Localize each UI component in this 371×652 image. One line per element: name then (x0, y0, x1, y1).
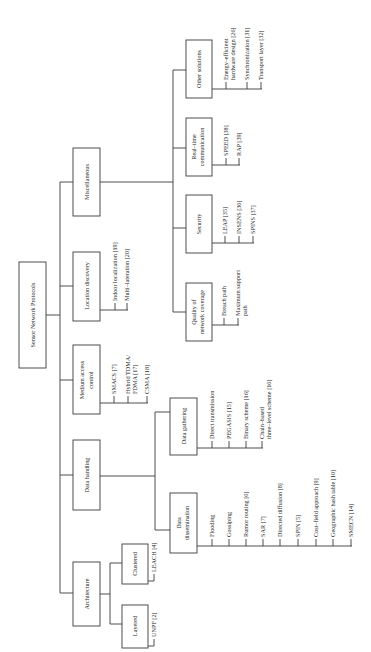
item-smacs: SMACS [7] (110, 364, 117, 394)
clustered-label: Clustered (131, 551, 138, 576)
item-chain-based: Chain–based (258, 406, 265, 439)
item-transport-layer: Transport layer [32] (257, 30, 264, 80)
item-breach-path: Breach path (220, 285, 227, 316)
root-node: Sensor Network Protocols (19, 262, 46, 368)
item-spin: SPIN [5] (294, 515, 301, 537)
node-location-discovery: Location discovery (73, 252, 100, 321)
node-other-solutions: Other solutions (186, 40, 212, 98)
item-energy-efficient: Energy–efficient (222, 38, 229, 80)
data-dissem-label-2: dissemination (183, 506, 190, 540)
node-data-handling: Data handling (73, 440, 100, 510)
item-hybrid-tdma-fdma: Hybrid TDMA/ (124, 355, 131, 394)
item-chain-based-2: three–level scheme [16] (265, 380, 272, 439)
item-binary-scheme: Binary scheme [16] (242, 390, 249, 439)
item-unpf: UNPF [2] (150, 612, 157, 637)
item-gossiping: Gossiping (225, 512, 232, 537)
qos-label-1: Quality of (190, 298, 197, 324)
item-synchronization: Synchronization [31] (243, 28, 250, 80)
item-smecn: SMECN [14] (347, 504, 354, 537)
item-sar: SAR [7] (259, 516, 266, 537)
item-directed-diffusion: Directed diffusion [8] (276, 483, 283, 537)
item-leap: LEAP [35] (221, 207, 228, 234)
item-maximum-support-path: Maximum support (234, 270, 241, 316)
node-quality-of-network-coverage: Quality of network coverage (186, 283, 212, 341)
node-layered: Layered (122, 605, 148, 648)
item-rap: RAP [39] (235, 132, 242, 156)
node-medium-access-control: Medium access control (73, 345, 100, 414)
rt-label-2: communication (198, 128, 205, 167)
item-maximum-support-path-2: path (241, 304, 248, 316)
node-data-dissemination: Data dissemination (170, 493, 197, 553)
sensor-network-protocols-tree: Sensor Network Protocols Miscellaneous O… (0, 0, 371, 652)
location-label: Location discovery (83, 261, 90, 309)
security-label: Security (195, 213, 202, 235)
item-csma: CSMA [18] (143, 365, 150, 394)
item-insens: INSENS [36] (235, 200, 242, 234)
item-direct-transmission: Direct transmission (208, 391, 215, 439)
mac-label-1: Medium access (78, 360, 85, 399)
item-spins: SPINS [37] (249, 205, 256, 234)
item-cost-field-approach: Cost–field approach [9] (312, 478, 319, 537)
node-security: Security (186, 195, 212, 253)
item-hybrid-tdma-fdma-2: FDMA [17] (131, 365, 138, 394)
item-rumor-routing: Rumor routing [6] (242, 492, 249, 537)
mac-label-2: control (87, 371, 94, 389)
item-leach: LEACH [4] (150, 543, 157, 572)
node-miscellaneous: Miscellaneous (73, 148, 100, 216)
item-pegasis: PEGASIS [15] (225, 402, 232, 439)
node-data-gathering: Data gathering (170, 398, 197, 455)
misc-label: Miscellaneous (83, 164, 90, 200)
item-multi-lateration: Multi–lateration [20] (123, 249, 130, 301)
node-architecture: Architecture (73, 562, 100, 626)
item-indoor-localization: Indoor localization [19] (111, 242, 118, 301)
data-dissem-label-1: Data (175, 517, 182, 529)
node-clustered: Clustered (122, 544, 148, 584)
data-handling-label: Data handling (83, 458, 90, 493)
layered-label: Layered (131, 615, 138, 636)
rt-label-1: Real–time (190, 134, 197, 160)
qos-label-2: network coverage (198, 290, 205, 334)
item-energy-efficient-2: hardware design [26] (229, 27, 236, 80)
architecture-label: Architecture (83, 578, 90, 609)
item-flooding: Flooding (208, 515, 215, 537)
item-speed: SPEED [38] (222, 125, 229, 156)
other-solutions-label: Other solutions (195, 49, 202, 88)
data-gathering-label: Data gathering (180, 408, 187, 445)
item-geographic-hash-table: Geographic hash table [10] (329, 470, 336, 537)
node-real-time-communication: Real–time communication (186, 118, 212, 176)
root-label: Sensor Network Protocols (29, 282, 36, 348)
